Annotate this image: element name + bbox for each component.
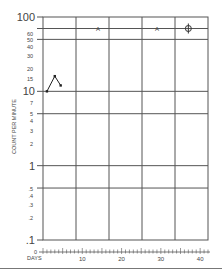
y-minor-tick-label: .4 — [28, 193, 33, 199]
y-minor-tick-label: 4 — [30, 118, 33, 124]
annotation-marker-a: A — [155, 26, 159, 32]
plot-frame — [43, 17, 208, 240]
x-tick-label: 10 — [79, 256, 86, 262]
x-tick-label: 40 — [197, 256, 204, 262]
x-tick-label: 30 — [158, 256, 165, 262]
y-major-tick-label: .1 — [26, 234, 35, 246]
data-point — [46, 90, 48, 92]
y-minor-tick-label: .5 — [28, 186, 33, 192]
y-axis-label: COUNT PER MINUTE — [11, 99, 17, 154]
y-minor-tick-label: 7 — [30, 100, 33, 106]
y-minor-tick-label: 50 — [27, 37, 33, 43]
y-major-tick-label: 1 — [29, 160, 35, 172]
data-series-line — [47, 76, 61, 91]
y-minor-tick-label: 3 — [30, 128, 33, 134]
y-minor-tick-label: .2 — [28, 215, 33, 221]
count-per-minute-chart: 100101.160504030201575432.5.4.3.2COUNT P… — [0, 0, 222, 279]
y-minor-tick-label: 5 — [30, 111, 33, 117]
chart-canvas: 100101.160504030201575432.5.4.3.2COUNT P… — [0, 0, 222, 279]
y-minor-tick-label: 2 — [30, 141, 33, 147]
data-point — [59, 84, 61, 86]
y-minor-tick-label: 40 — [27, 44, 33, 50]
bottom-divider — [0, 268, 222, 269]
annotation-marker-a: A — [96, 26, 100, 32]
y-major-tick-label: 100 — [17, 11, 35, 23]
y-minor-tick-label: 20 — [27, 66, 33, 72]
y-minor-tick-label: 15 — [27, 76, 33, 82]
y-minor-tick-label: .3 — [28, 202, 33, 208]
x-axis-label: DAYS — [27, 255, 42, 261]
x-tick-label: 20 — [118, 256, 125, 262]
y-minor-tick-label: 30 — [27, 53, 33, 59]
data-point — [54, 75, 56, 77]
y-major-tick-label: 10 — [23, 85, 35, 97]
